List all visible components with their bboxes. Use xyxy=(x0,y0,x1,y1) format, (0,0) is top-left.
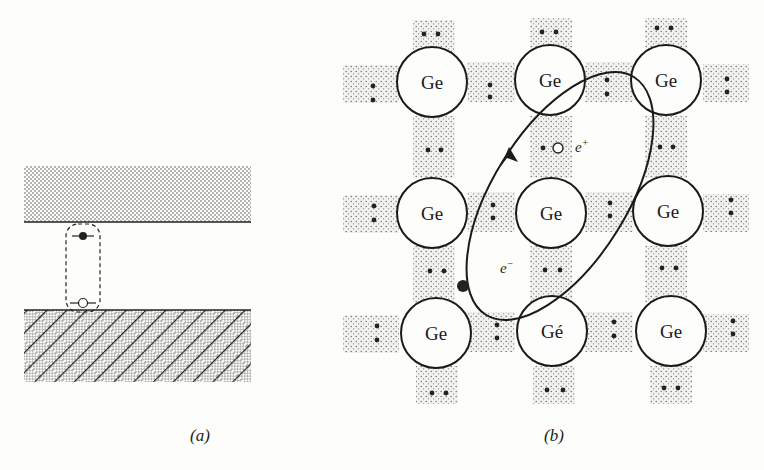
hole-circle xyxy=(79,299,88,308)
conduction-band xyxy=(24,166,251,222)
hole-label: e+ xyxy=(575,137,588,155)
exciton-figure: Ge Ge Ge Ge Ge Ge Ge Gé Ge e+ e− xyxy=(0,0,764,470)
electron-label: e− xyxy=(500,258,513,276)
atom-label: Gé xyxy=(541,321,563,342)
atom-label: Ge xyxy=(539,70,561,91)
electron-dot xyxy=(79,232,87,240)
electron-dot xyxy=(457,280,469,292)
atom-label: Ge xyxy=(657,201,679,222)
valence-band xyxy=(24,310,251,382)
atom-label: Ge xyxy=(421,203,443,224)
atom-label: Ge xyxy=(655,70,677,91)
atom-label: Ge xyxy=(660,321,682,342)
panel-b-caption: (b) xyxy=(544,426,564,446)
panel-a-caption: (a) xyxy=(190,426,210,446)
atom-label: Ge xyxy=(421,72,443,93)
atom-label: Ge xyxy=(425,323,447,344)
panel-b-lattice: Ge Ge Ge Ge Ge Ge Ge Gé Ge e+ e− xyxy=(343,18,749,404)
hole-circle xyxy=(553,143,563,153)
panel-a-band-diagram xyxy=(24,166,251,382)
atom-label: Ge xyxy=(540,203,562,224)
orbit-direction-arrow xyxy=(501,147,518,166)
